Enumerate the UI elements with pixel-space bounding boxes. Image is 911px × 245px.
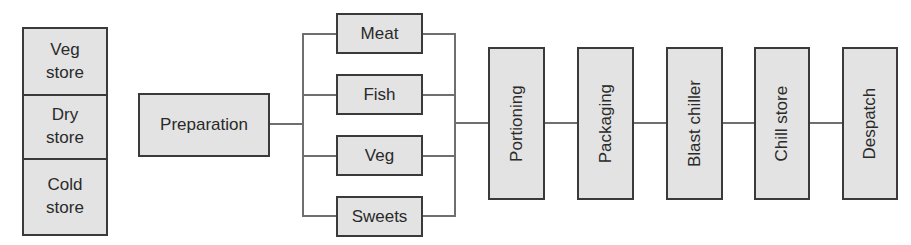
blast-chiller-node: Blast chiller [666,47,723,200]
cold-store-label: Cold store [46,174,84,220]
veg-store-node: Veg store [24,29,106,95]
veg-label: Veg [365,145,394,166]
connector [422,33,456,35]
despatch-label: Despatch [859,88,880,160]
portioning-label: Portioning [506,85,527,162]
portioning-node: Portioning [488,47,545,200]
meat-label: Meat [361,23,399,44]
sweets-label: Sweets [352,206,408,227]
connector [302,215,337,217]
connector [302,94,337,96]
connector [422,94,456,96]
connector-bus-left [302,33,304,217]
veg-node: Veg [336,135,423,176]
connector [422,215,456,217]
connector [302,155,337,157]
cold-store-node: Cold store [24,160,106,234]
dry-store-label: Dry store [46,104,84,150]
connector [544,122,578,124]
blast-chiller-label: Blast chiller [684,80,705,167]
dry-store-node: Dry store [24,96,106,158]
connector [270,123,304,125]
connector [633,122,667,124]
fish-node: Fish [336,74,423,115]
meat-node: Meat [336,13,423,54]
connector [809,122,843,124]
preparation-label: Preparation [160,114,248,135]
chill-store-node: Chill store [754,47,810,200]
chill-store-label: Chill store [771,86,792,162]
connector-bus-right [454,33,456,217]
packaging-label: Packaging [595,84,616,163]
fish-label: Fish [363,84,395,105]
preparation-node: Preparation [138,93,270,157]
connector [302,33,337,35]
packaging-node: Packaging [577,47,634,200]
sweets-node: Sweets [336,196,423,237]
despatch-node: Despatch [842,47,898,200]
veg-store-label: Veg store [46,39,84,85]
connector [422,155,456,157]
connector [722,122,755,124]
connector [454,122,489,124]
